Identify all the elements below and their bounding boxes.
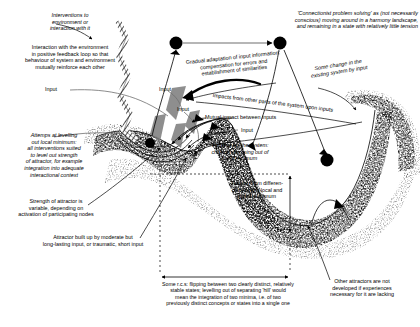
input-leader-1	[70, 90, 168, 116]
label-feedback-loop: Interaction with the environment in posi…	[10, 44, 130, 70]
label-tension: Tension from differen- ce between local …	[222, 180, 292, 200]
node-lower-right	[321, 154, 334, 167]
label-heating-up: 'Heating up' the system: chance of comin…	[200, 142, 280, 162]
label-some-rcs: Some r.c.s: flipping between two clearly…	[138, 281, 318, 306]
label-levelling-out: Attemps at levelling out local minimum: …	[8, 132, 100, 178]
harmony-landscape-diagram: Interventions to environment or interact…	[0, 0, 420, 327]
label-input-3: Input	[177, 106, 189, 113]
label-connectionist: 'Connectionist problem solving' as (not …	[244, 10, 418, 30]
label-input-1: Input	[45, 86, 57, 93]
label-interventions: Interventions to environment or interact…	[32, 12, 108, 32]
node-left-top	[170, 37, 183, 50]
label-attractor-built-up: Attractor built up by moderate but long-…	[30, 234, 156, 247]
label-input-2: Input	[159, 86, 171, 93]
interventions-hatched-arrow	[118, 21, 136, 140]
label-strength-of-attractor: Strength of attractor is variable, depen…	[2, 198, 110, 218]
label-other-attractors: Other attractors are not developed if ex…	[322, 278, 402, 298]
label-input-4: Input	[241, 127, 253, 134]
label-mutual-impact: Mutual impact between inputs	[205, 114, 335, 121]
arrow-left-node-down	[170, 50, 180, 55]
node-ball-in-local-minimum	[145, 138, 155, 148]
node-right-top	[274, 37, 287, 50]
